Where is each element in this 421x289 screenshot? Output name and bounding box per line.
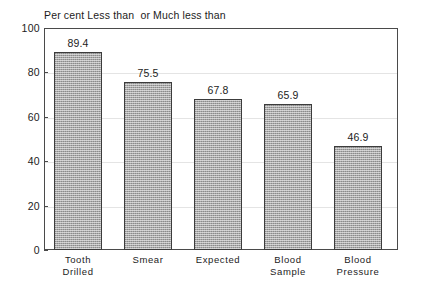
y-axis-tick-label: 20 bbox=[6, 200, 40, 212]
bar bbox=[194, 99, 242, 250]
y-axis-tick-mark bbox=[44, 117, 48, 118]
bar-chart: Per cent Less than or Much less than 020… bbox=[0, 0, 421, 289]
bar bbox=[124, 82, 172, 250]
x-axis-category-label: Blood Sample bbox=[270, 254, 306, 278]
x-axis-category-label: Blood Pressure bbox=[337, 254, 380, 278]
y-axis-tick-mark bbox=[44, 206, 48, 207]
bar-value-label: 46.9 bbox=[347, 131, 368, 143]
y-axis-tick-mark bbox=[44, 28, 48, 29]
bar bbox=[54, 52, 102, 250]
y-axis-tick-mark bbox=[44, 72, 48, 73]
y-axis-tick-label: 60 bbox=[6, 111, 40, 123]
x-axis-category-label: Tooth Drilled bbox=[62, 254, 93, 278]
bar bbox=[334, 146, 382, 250]
x-axis-category-label: Smear bbox=[133, 254, 164, 266]
y-axis-tick-label: 0 bbox=[6, 244, 40, 256]
bar-value-label: 89.4 bbox=[67, 37, 88, 49]
y-axis-tick-label: 80 bbox=[6, 66, 40, 78]
bar-value-label: 67.8 bbox=[207, 84, 228, 96]
bar-value-label: 65.9 bbox=[277, 89, 298, 101]
chart-title: Per cent Less than or Much less than bbox=[44, 9, 226, 21]
y-axis-tick-mark bbox=[44, 161, 48, 162]
y-axis-tick-label: 40 bbox=[6, 155, 40, 167]
bar-series: 89.475.567.865.946.9 bbox=[44, 28, 398, 250]
y-axis-tick-mark bbox=[44, 250, 48, 251]
bar-value-label: 75.5 bbox=[137, 67, 158, 79]
y-axis-tick-label: 100 bbox=[6, 22, 40, 34]
y-axis-tick-labels: 020406080100 bbox=[0, 28, 40, 250]
bar bbox=[264, 104, 312, 250]
x-axis-category-label: Expected bbox=[196, 254, 240, 266]
x-axis-category-labels: Tooth DrilledSmearExpectedBlood SampleBl… bbox=[44, 254, 398, 288]
